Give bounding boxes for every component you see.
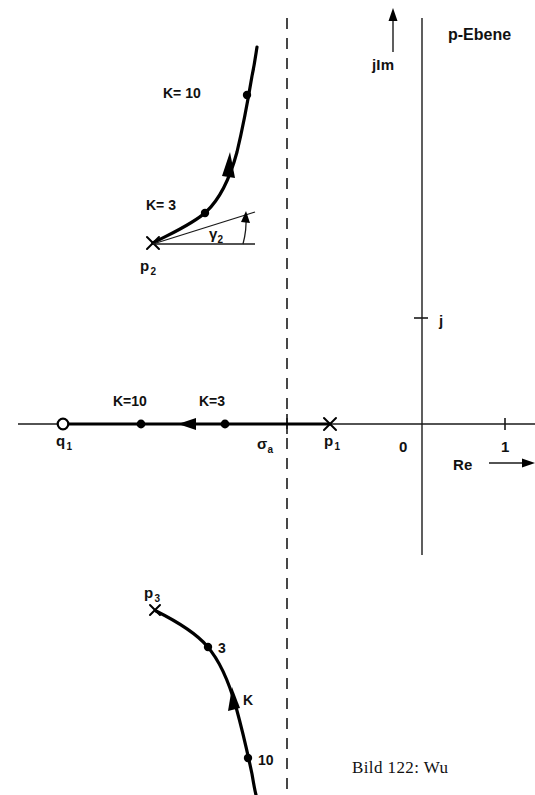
root-locus-figure: jIm Re j 0 1 p-Ebene σa q1 p1 K=10 K=3: [0, 0, 535, 795]
pole-p2-label: p2: [140, 257, 156, 277]
asymptote-label: σa: [257, 435, 273, 455]
imaginary-axis-label: jIm: [371, 56, 394, 73]
plane-label: p-Ebene: [448, 26, 511, 43]
gain-dot-real-k3: [221, 420, 230, 429]
gain-label-lower-10: 10: [258, 752, 274, 768]
gain-dot-upper-k10: [243, 91, 251, 99]
real-axis-locus-branch: [63, 418, 330, 430]
imaginary-unit-label: j: [438, 312, 443, 329]
gain-label-lower-k: K: [243, 692, 253, 708]
gain-label-upper-k3: K= 3: [146, 197, 176, 213]
pole-p3: [150, 605, 160, 615]
figure-caption: Bild 122: Wu: [352, 758, 448, 777]
zero-circle-icon: [58, 419, 69, 430]
imaginary-arrow-head: [389, 8, 398, 21]
real-branch-direction-arrow: [178, 418, 196, 430]
real-arrow-head: [522, 459, 535, 468]
pole-p1-label: p1: [324, 432, 340, 452]
zero-q1-label: q1: [56, 432, 72, 452]
zero-q1: [58, 419, 69, 430]
pole-p3-label: p3: [144, 584, 160, 604]
gain-dot-upper-k3: [201, 209, 209, 217]
gain-dot-lower-3: [204, 643, 212, 651]
departure-angle-label: γ2: [209, 225, 224, 245]
lower-complex-branch: [156, 611, 256, 795]
lower-branch-curve: [156, 611, 256, 795]
real-axis-label: Re: [453, 456, 473, 473]
gain-label-real-k3: K=3: [199, 393, 225, 409]
axes-group: [18, 18, 535, 555]
gain-dot-lower-10: [244, 754, 252, 762]
imaginary-axis-arrow: [389, 8, 398, 52]
gain-dot-real-k10: [137, 420, 146, 429]
real-unit-label: 1: [501, 438, 510, 455]
gain-label-real-k10: K=10: [113, 393, 147, 409]
gain-label-upper-k10: K= 10: [163, 85, 201, 101]
origin-label: 0: [399, 438, 408, 455]
angle-arc-arrow: [241, 211, 250, 223]
real-axis-arrow: [489, 459, 535, 468]
gain-label-lower-3: 3: [218, 640, 226, 656]
